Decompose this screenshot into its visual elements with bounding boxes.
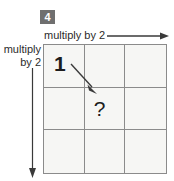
grid-cell-r2c2[interactable]: ? xyxy=(85,88,126,131)
grid-cell-r3c2[interactable] xyxy=(85,130,126,173)
arrow-right-icon xyxy=(107,30,169,42)
grid-cell-r3c1[interactable] xyxy=(44,130,85,173)
left-axis-label-line1: multiply xyxy=(4,43,41,55)
grid-cell-unknown-value: ? xyxy=(94,98,106,119)
grid-cell-r1c3[interactable] xyxy=(125,45,166,88)
arrow-down-icon xyxy=(24,68,42,178)
left-axis-label: multiply by 2 xyxy=(0,43,41,68)
grid-cell-r2c1[interactable] xyxy=(44,88,85,131)
grid-cell-r3c3[interactable] xyxy=(125,130,166,173)
left-axis-label-line2: by 2 xyxy=(0,56,41,69)
exercise-number-badge: 4 xyxy=(40,10,55,24)
grid-cell-r1c2[interactable] xyxy=(85,45,126,88)
grid-cell-r2c3[interactable] xyxy=(125,88,166,131)
grid-cell-value: 1 xyxy=(54,53,66,74)
multiplication-grid: 1 ? xyxy=(43,44,167,174)
top-axis-label: multiply by 2 xyxy=(44,29,105,41)
grid-cell-r1c1[interactable]: 1 xyxy=(44,45,85,88)
